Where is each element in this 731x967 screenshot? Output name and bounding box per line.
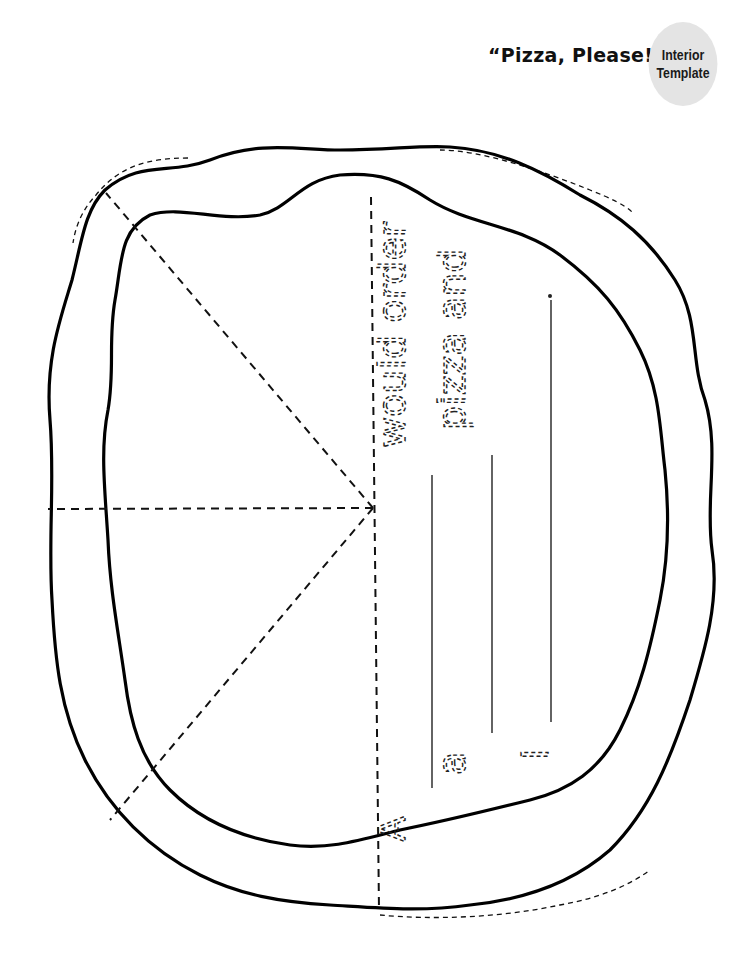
writing-area: would order pizza and A a I xyxy=(370,221,557,842)
trace-text-pizza-and: pizza and xyxy=(430,249,474,430)
slice-dividers xyxy=(48,193,379,910)
period-dot xyxy=(548,294,552,298)
cut-guide-dashes xyxy=(73,150,650,918)
pizza-template-drawing: would order pizza and A a I xyxy=(0,0,731,967)
trace-letter-A: A xyxy=(370,816,414,842)
trace-text-would-order: would order xyxy=(370,221,414,448)
trace-letter-a: a xyxy=(430,752,474,775)
trace-letter-I: I xyxy=(513,749,557,760)
